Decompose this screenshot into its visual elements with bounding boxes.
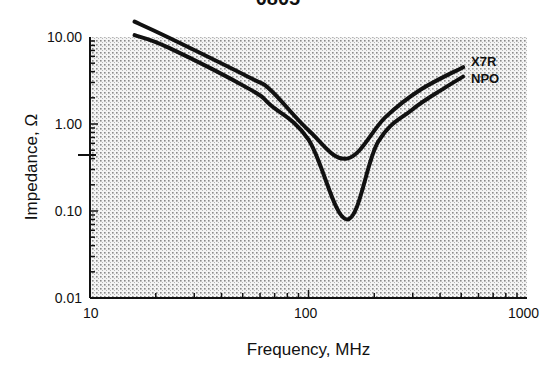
x-tick-label: 100 <box>294 305 317 321</box>
y-tick-label: 0.01 <box>22 290 82 306</box>
x-axis-title: Frequency, MHz <box>0 340 556 360</box>
y-axis-title: Impedance, Ω <box>22 114 42 220</box>
legend-label-x7r: X7R <box>471 54 496 69</box>
legend-label-npo: NPO <box>471 71 499 86</box>
x-tick-label: 1000 <box>508 305 539 321</box>
x-tick-label: 10 <box>83 305 99 321</box>
y-tick-label: 10.00 <box>22 29 82 45</box>
